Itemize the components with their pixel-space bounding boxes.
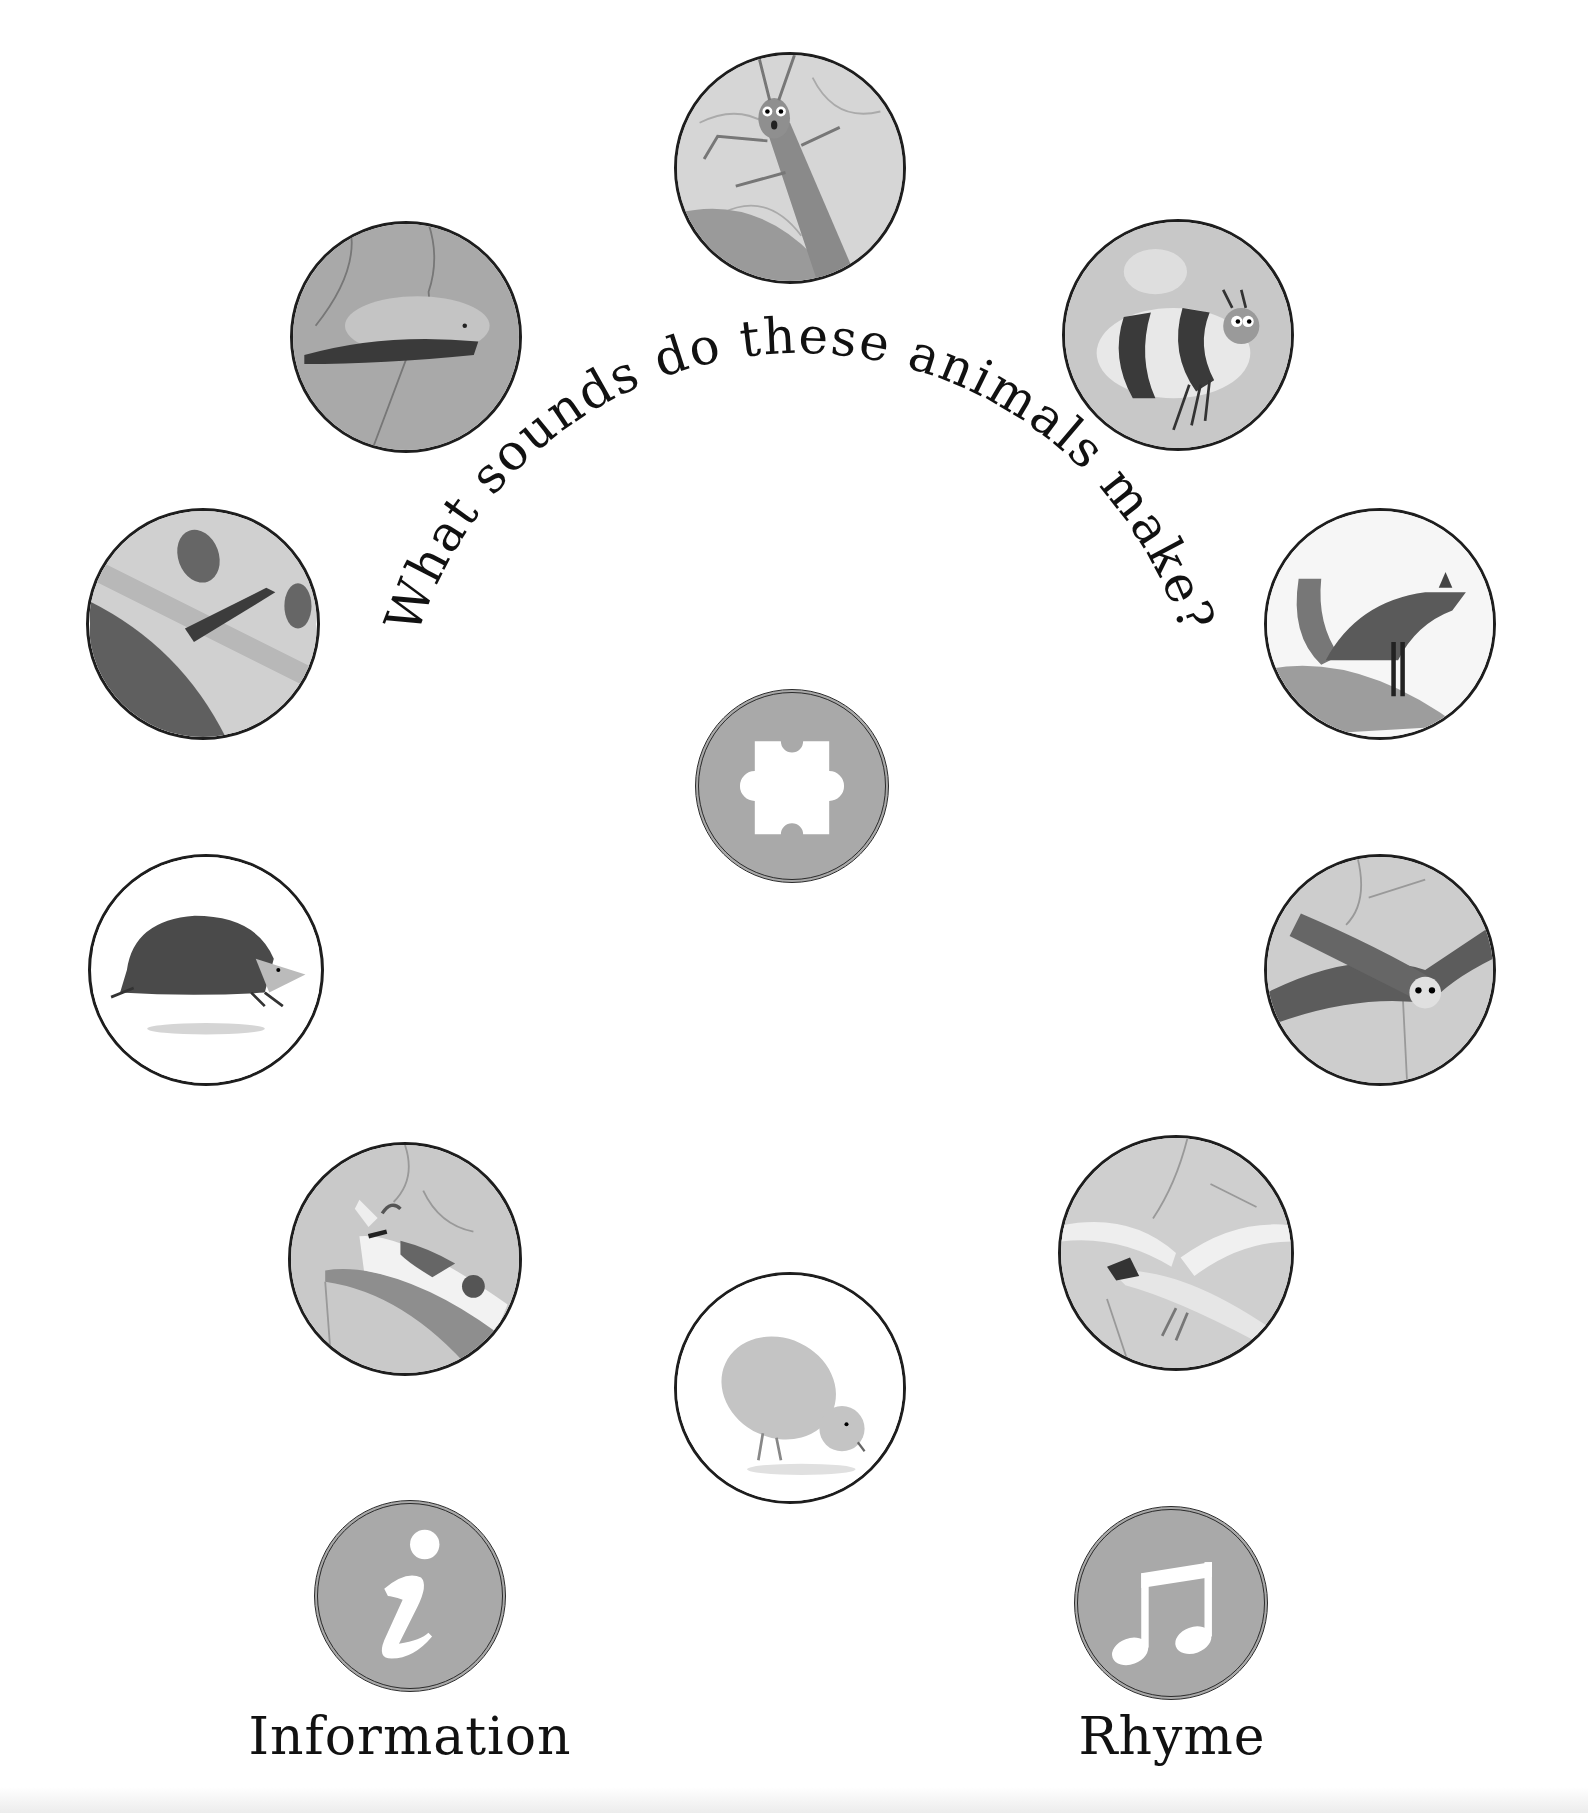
hedgehog-icon (91, 857, 321, 1083)
animal-owl-button[interactable] (1264, 854, 1496, 1086)
puzzle-button[interactable] (695, 689, 889, 883)
chick-icon (677, 1275, 903, 1501)
animal-mouse-button[interactable] (290, 221, 522, 453)
animal-goat-button[interactable] (288, 1142, 522, 1376)
bee-icon (1065, 222, 1291, 448)
rhyme-button[interactable] (1074, 1506, 1268, 1700)
animal-swan-button[interactable] (1058, 1135, 1294, 1371)
puzzle-icon (699, 693, 885, 879)
information-button[interactable] (314, 1500, 506, 1692)
fox-icon (1267, 511, 1493, 737)
music-note-icon (1078, 1510, 1264, 1696)
mouse-icon (293, 224, 519, 450)
animal-goose-button[interactable] (86, 508, 320, 740)
animal-fox-button[interactable] (1264, 508, 1496, 740)
animal-hedgehog-button[interactable] (88, 854, 324, 1086)
animal-chick-button[interactable] (674, 1272, 906, 1504)
owl-icon (1267, 857, 1493, 1083)
goat-icon (291, 1145, 519, 1373)
page-edge-shadow (0, 1787, 1588, 1813)
goose-icon (89, 511, 317, 737)
info-icon (318, 1504, 502, 1688)
animal-bee-button[interactable] (1062, 219, 1294, 451)
rhyme-label[interactable]: Rhyme (1078, 1706, 1265, 1766)
swan-icon (1061, 1138, 1291, 1368)
information-label[interactable]: Information (248, 1706, 571, 1766)
animal-grasshopper-button[interactable] (674, 52, 906, 284)
grasshopper-icon (677, 55, 903, 281)
